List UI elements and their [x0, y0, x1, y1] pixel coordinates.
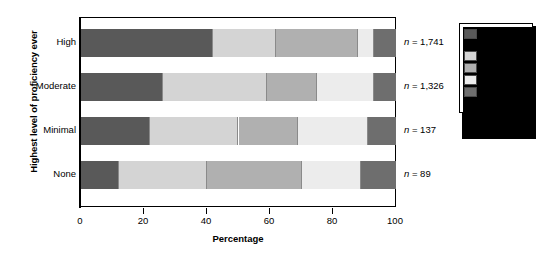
stacked-bar: [81, 161, 396, 189]
legend-label: Neutral: [481, 62, 510, 73]
bar-segment-strongly-disagree: [374, 29, 396, 57]
bar-segment-strongly-agree: [81, 29, 213, 57]
bar-segment-disagree: [298, 117, 367, 145]
category-label-none: None: [0, 168, 76, 179]
bar-segment-disagree: [317, 73, 374, 101]
chart-root: Highest level of proficiency ever Highn …: [0, 0, 541, 262]
bar-segment-agree: [213, 29, 276, 57]
bar-segment-strongly-disagree: [361, 161, 396, 189]
group-size-label: n = 1,741: [404, 36, 444, 47]
bar-segment-agree: [119, 161, 207, 189]
stacked-bar: [81, 73, 396, 101]
category-label-high: High: [0, 36, 76, 47]
legend-item-agree: Agree: [464, 50, 528, 61]
x-axis-tick-label: 60: [264, 215, 275, 226]
legend-label: Strongly agree: [481, 28, 528, 49]
bar-segment-disagree: [358, 29, 374, 57]
legend-item-disagree: Disagree: [464, 74, 528, 85]
group-size-label: n = 89: [404, 168, 431, 179]
x-axis-title: Percentage: [80, 233, 396, 244]
legend-swatch: [464, 29, 477, 39]
x-axis-tick: [269, 208, 270, 214]
legend-label: Strongly disagree: [481, 86, 528, 107]
x-axis-tick: [206, 208, 207, 214]
legend-item-neutral: Neutral: [464, 62, 528, 73]
bar-row: Minimaln = 137: [0, 117, 541, 145]
x-axis-tick-label: 100: [387, 215, 403, 226]
x-axis-tick-label: 40: [201, 215, 212, 226]
bar-segment-agree: [163, 73, 267, 101]
x-axis-tick-label: 80: [327, 215, 338, 226]
bar-segment-neutral: [207, 161, 302, 189]
x-axis-tick-label: 0: [77, 215, 82, 226]
category-label-moderate: Moderate: [0, 80, 76, 91]
legend: Strongly agreeAgreeNeutralDisagreeStrong…: [459, 23, 533, 113]
legend-label: Disagree: [481, 74, 517, 85]
bar-segment-neutral: [276, 29, 358, 57]
stacked-bar: [81, 29, 396, 57]
legend-swatch: [464, 75, 477, 85]
bar-segment-agree: [150, 117, 238, 145]
bar-segment-strongly-disagree: [368, 117, 396, 145]
bar-segment-neutral: [267, 73, 317, 101]
bar-segment-strongly-agree: [81, 161, 119, 189]
legend-swatch: [464, 87, 477, 97]
bar-segment-strongly-agree: [81, 73, 163, 101]
bar-segment-neutral: [239, 117, 299, 145]
legend-swatch: [464, 63, 477, 73]
legend-label: Agree: [481, 50, 505, 61]
legend-item-strongly-disagree: Strongly disagree: [464, 86, 528, 107]
x-axis-tick: [332, 208, 333, 214]
legend-swatch: [464, 51, 477, 61]
x-axis-tick-label: 20: [138, 215, 149, 226]
bar-segment-strongly-disagree: [374, 73, 396, 101]
group-size-label: n = 137: [404, 124, 436, 135]
bar-row: Nonen = 89: [0, 161, 541, 189]
group-size-label: n = 1,326: [404, 80, 444, 91]
x-axis-tick: [143, 208, 144, 214]
legend-item-strongly-agree: Strongly agree: [464, 28, 528, 49]
bar-segment-disagree: [302, 161, 362, 189]
bar-segment-strongly-agree: [81, 117, 150, 145]
stacked-bar: [81, 117, 396, 145]
category-label-minimal: Minimal: [0, 124, 76, 135]
